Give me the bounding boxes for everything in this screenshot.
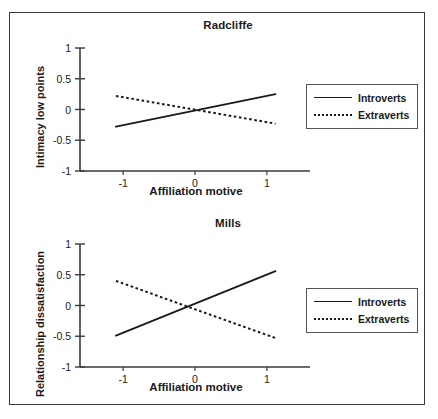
legend-label-introverts: Introverts [354,92,406,104]
x-axis-label-mills: Affiliation motive [66,381,326,393]
y-tick-label: -0.5 [53,134,71,146]
legend-item-introverts: Introverts [312,89,411,107]
legend-item-extraverts: Extraverts [312,311,411,329]
series-line-introverts [116,271,276,336]
solid-line-swatch-icon [312,92,354,104]
y-tick-label: -1 [62,165,71,177]
solid-line-swatch-icon [312,296,354,308]
series-line-extraverts [116,281,276,338]
dotted-line-swatch-icon [312,313,354,325]
y-tick-label: 1 [65,238,71,250]
legend-label-extraverts: Extraverts [354,313,409,325]
chart-panel-radcliffe: Radcliffe Intimacy low points 10.50-0.5-… [10,13,426,209]
series-line-introverts [116,94,276,127]
y-tick-label: 0.5 [56,73,71,85]
x-axis-label-radcliffe: Affiliation motive [66,185,326,197]
y-tick-label: 0.5 [56,269,71,281]
legend-label-extraverts: Extraverts [354,109,409,121]
legend-radcliffe: Introverts Extraverts [306,84,418,129]
y-tick-label: -1 [62,361,71,373]
legend-item-introverts: Introverts [312,293,411,311]
legend-label-introverts: Introverts [354,296,406,308]
dotted-line-swatch-icon [312,109,354,121]
legend-item-extraverts: Extraverts [312,107,411,125]
y-tick-label: 1 [65,42,71,54]
figure-frame: Radcliffe Intimacy low points 10.50-0.5-… [9,12,425,405]
legend-mills: Introverts Extraverts [306,288,418,333]
y-tick-label: 0 [65,104,71,116]
y-tick-label: 0 [65,300,71,312]
y-tick-label: -0.5 [53,330,71,342]
